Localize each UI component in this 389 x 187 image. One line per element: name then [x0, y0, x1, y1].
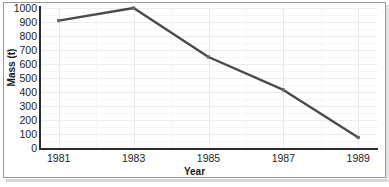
y-tick-700: 700	[1, 45, 37, 55]
data-point-1983	[132, 6, 135, 9]
data-point-markers	[57, 6, 360, 139]
chart-figure: Mass (t) Year 01002003004005006007008009…	[0, 0, 389, 187]
data-point-1989	[357, 136, 360, 139]
data-point-1985	[207, 55, 210, 58]
y-tick-100: 100	[1, 129, 37, 139]
y-tick-500: 500	[1, 73, 37, 83]
line-path-mass	[59, 8, 359, 138]
x-tick-1985: 1985	[186, 152, 232, 164]
x-axis-title: Year	[0, 166, 389, 177]
y-tick-300: 300	[1, 101, 37, 111]
x-tick-1989: 1989	[335, 152, 381, 164]
frame-shadow-bottom	[6, 179, 387, 182]
x-axis-line	[39, 148, 378, 150]
y-axis-line	[39, 6, 41, 150]
y-tick-0: 0	[1, 143, 37, 153]
y-tick-600: 600	[1, 59, 37, 69]
data-point-1987	[282, 88, 285, 91]
series-line-mass	[40, 8, 377, 148]
y-tick-400: 400	[1, 87, 37, 97]
plot-area	[40, 8, 377, 148]
x-tick-1983: 1983	[111, 152, 157, 164]
y-tick-200: 200	[1, 115, 37, 125]
x-tick-1987: 1987	[260, 152, 306, 164]
y-tick-900: 900	[1, 17, 37, 27]
x-tick-1981: 1981	[36, 152, 82, 164]
y-tick-800: 800	[1, 31, 37, 41]
data-point-1981	[57, 19, 60, 22]
y-tick-1000: 1000	[1, 3, 37, 13]
